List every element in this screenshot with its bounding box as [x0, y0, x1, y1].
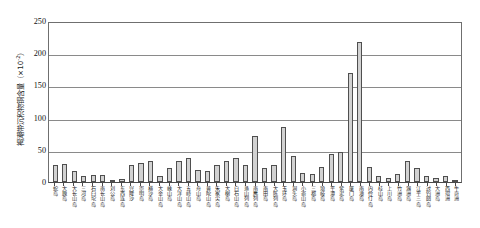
bar-slot	[431, 23, 441, 182]
x-label-slot: 蛇岛	[50, 186, 60, 228]
x-label-slot: 东西连岛	[116, 186, 126, 228]
x-label-slot: 大陈列岛	[269, 186, 279, 228]
bar	[357, 42, 362, 182]
bar-slot	[317, 23, 327, 182]
x-label-slot: 竹洲岛	[394, 186, 404, 228]
x-label-slot: 江平三岛	[413, 186, 423, 228]
bar	[319, 167, 324, 182]
chart-figure: 褐潮带沉积物铜含量（×10-2） 250200150100500 蛇岛大鹿岛大长…	[0, 0, 480, 228]
x-label-slot: 上川岛	[384, 186, 394, 228]
bar	[452, 180, 457, 182]
bar	[329, 154, 334, 182]
bar	[53, 165, 58, 182]
bar-slot	[146, 23, 156, 182]
bar-slot	[288, 23, 298, 182]
bar-slot	[412, 23, 422, 182]
y-axis-tick-label: 250	[16, 17, 46, 26]
bar	[424, 176, 429, 182]
bar-slot	[307, 23, 317, 182]
x-label-slot: 渔山列岛	[241, 186, 251, 228]
bar	[300, 173, 305, 182]
x-axis-tick-label: 玉环岛	[281, 186, 287, 228]
x-axis-tick-label: 涠洲岛	[405, 186, 411, 228]
y-axis-tick-label: 0	[16, 178, 46, 187]
y-axis-tick-label: 150	[16, 81, 46, 90]
bar-slot	[165, 23, 175, 182]
x-axis-tick-label: 大榭岛	[224, 186, 230, 228]
x-axis-tick-label: 竹洲岛	[396, 186, 402, 228]
bar	[72, 171, 77, 182]
bar-slot	[241, 23, 251, 182]
bar	[205, 171, 210, 182]
x-label-slot: 桂山岛	[375, 186, 385, 228]
y-axis-tick-labels: 250200150100500	[14, 0, 46, 228]
bar-slot	[250, 23, 260, 182]
bar-slot	[89, 23, 99, 182]
bar	[414, 168, 419, 182]
bar-slot	[441, 23, 451, 182]
x-label-slot: 内伶仃岛	[365, 186, 375, 228]
bar-slot	[155, 23, 165, 182]
x-label-slot: 舟山岛	[193, 186, 203, 228]
x-label-slot: 三河岛	[78, 186, 88, 228]
bar-slot	[203, 23, 213, 182]
x-label-slot: 嵊山岛	[164, 186, 174, 228]
x-axis-tick-label: 南麂列岛	[252, 186, 258, 228]
bar-slot	[326, 23, 336, 182]
x-axis-tick-label: 琅岐岛	[319, 186, 325, 228]
x-axis-tick-label: 朱家尖岛	[214, 186, 220, 228]
x-axis-tick-label: 大陈列岛	[271, 186, 277, 228]
bar-slot	[60, 23, 70, 182]
x-axis-tick-label: 东西连岛	[118, 186, 124, 228]
bar-slot	[108, 23, 118, 182]
x-label-slot: 小嵛山岛	[298, 186, 308, 228]
y-axis-tick-label: 100	[16, 114, 46, 123]
bar	[214, 165, 219, 182]
x-axis-tick-label: 江平三岛	[415, 186, 421, 228]
bar	[271, 165, 276, 182]
x-label-slot: 紫泥岛	[336, 186, 346, 228]
x-axis-tick-label: 三都岛	[310, 186, 316, 228]
x-axis-tick-label: 洞头岛	[291, 186, 297, 228]
bar-slot	[450, 23, 460, 182]
bar	[367, 167, 372, 182]
x-axis-tick-label: 崇明岛	[138, 186, 144, 228]
bar-slot	[136, 23, 146, 182]
x-label-slot: 过钓圆岛	[422, 186, 432, 228]
x-label-slot: 南麂列岛	[250, 186, 260, 228]
bar	[243, 165, 248, 182]
bar	[348, 73, 353, 182]
x-label-slot: 朱家尖岛	[212, 186, 222, 228]
x-label-slot: 西瑁洲	[442, 186, 452, 228]
bar	[100, 175, 105, 182]
bar	[157, 176, 162, 182]
bar-slot	[355, 23, 365, 182]
bar	[310, 174, 315, 182]
x-axis-tick-label: 紫泥岛	[338, 186, 344, 228]
bar	[443, 176, 448, 182]
x-label-slot: 兴隆沙	[126, 186, 136, 228]
bar-slot	[117, 23, 127, 182]
x-label-slot: 大洲岛	[432, 186, 442, 228]
x-label-slot: 崇明岛	[136, 186, 146, 228]
x-axis-tick-labels: 蛇岛大鹿岛大长山岛三河岛石臼坨岛南长山岛刘公岛东西连岛兴隆沙崇明岛横沙岛大金山岛…	[48, 186, 462, 228]
bar-slot	[51, 23, 61, 182]
bar-slot	[231, 23, 241, 182]
x-label-slot: 南田岛	[260, 186, 270, 228]
bar	[62, 164, 67, 182]
x-label-slot: 平潭岛	[327, 186, 337, 228]
x-label-slot: 洞头岛	[289, 186, 299, 228]
x-label-slot: 五峙山岛	[183, 186, 193, 228]
x-axis-tick-label: 大洲岛	[434, 186, 440, 228]
x-label-slot: 三都岛	[308, 186, 318, 228]
x-axis-tick-label: 桂山岛	[377, 186, 383, 228]
x-axis-tick-label: 南田岛	[262, 186, 268, 228]
x-axis-tick-label: 南长山岛	[99, 186, 105, 228]
bar-slot	[127, 23, 137, 182]
bar	[405, 161, 410, 182]
x-axis-tick-label: 普陀山岛	[204, 186, 210, 228]
x-axis-tick-label: 牛奇洲	[453, 186, 459, 228]
x-axis-tick-label: 厦门岛	[348, 186, 354, 228]
x-label-slot: 石臼坨岛	[88, 186, 98, 228]
bar-slot	[98, 23, 108, 182]
